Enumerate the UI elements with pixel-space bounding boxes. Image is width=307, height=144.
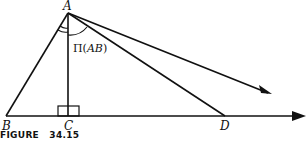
pi-suffix: ) [103,42,107,55]
segment-AD [68,13,225,116]
angle-of-parallelism-label: Π(AB) [73,43,107,54]
ray-arrowhead-icon [259,85,272,94]
point-label-A: A [63,0,72,12]
pi-prefix: Π( [73,42,87,55]
angle-arc-BAC-2 [58,30,68,32]
angle-arc-BAC [60,26,68,28]
pi-argument: AB [87,42,103,55]
point-label-D: D [220,120,230,132]
geometry-figure [0,0,307,144]
segment-AB [6,13,68,116]
figure-caption: FIGURE 34.15 [0,130,79,140]
angle-arc-parallel [68,27,87,35]
baseline-arrowhead-icon [292,111,306,121]
